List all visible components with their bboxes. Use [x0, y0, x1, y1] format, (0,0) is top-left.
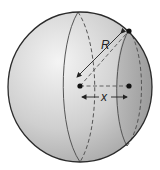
radius-label: R: [101, 38, 110, 52]
section-center-point: [126, 83, 131, 88]
distance-label: x: [100, 90, 108, 104]
section-edge-point: [126, 28, 131, 33]
sphere-center-point: [77, 83, 82, 88]
sphere-diagram: R x: [0, 0, 160, 170]
